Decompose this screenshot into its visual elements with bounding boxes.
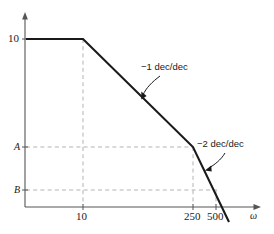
x-axis — [25, 204, 261, 210]
x-axis-label-omega: ω — [250, 211, 257, 221]
x-tick-label-500: 500 — [207, 211, 224, 222]
y-tick-label-10: 10 — [8, 33, 19, 44]
y-axis — [22, 12, 28, 207]
x-tick-label-10: 10 — [76, 211, 87, 222]
magnitude-curve — [26, 39, 229, 222]
leader-arrow-slope-1 — [141, 76, 160, 100]
leader-arrow-slope-2 — [205, 153, 225, 172]
plot-canvas — [0, 0, 274, 234]
guide-lines — [26, 39, 217, 205]
bode-magnitude-plot: 10 A B 10 250 500 ω −1 dec/dec −2 dec/de… — [0, 0, 274, 234]
y-tick-label-b: B — [14, 185, 20, 195]
annotation-slope-minus-1: −1 dec/dec — [141, 62, 188, 72]
y-tick-label-a: A — [14, 142, 20, 152]
annotation-slope-minus-2: −2 dec/dec — [197, 139, 244, 149]
x-tick-label-250: 250 — [184, 211, 201, 222]
